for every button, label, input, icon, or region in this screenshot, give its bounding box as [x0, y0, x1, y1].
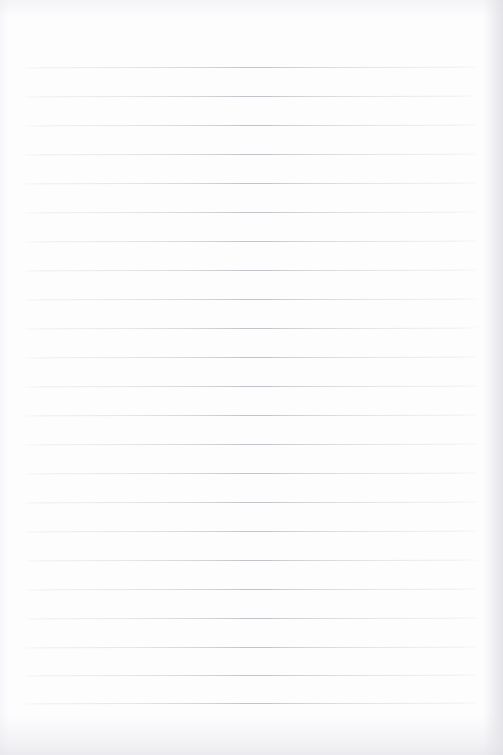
- rule-line: [25, 328, 477, 330]
- rule-line: [25, 183, 477, 185]
- rule-line: [25, 531, 477, 533]
- rule-line: [24, 125, 476, 127]
- rule-line: [25, 386, 477, 388]
- rule-line: [25, 560, 477, 562]
- rule-line: [25, 299, 477, 301]
- rule-line: [24, 67, 476, 69]
- rule-line: [25, 589, 477, 591]
- rule-line: [26, 618, 478, 620]
- scanned-page: [0, 0, 503, 755]
- rule-line: [24, 96, 476, 98]
- ruled-lines-group: [0, 0, 503, 755]
- rule-line: [25, 444, 477, 446]
- rule-line: [26, 675, 478, 677]
- rule-line: [25, 154, 477, 156]
- rule-line: [25, 357, 477, 359]
- rule-line: [25, 212, 477, 214]
- rule-line: [25, 502, 477, 504]
- rule-line: [25, 473, 477, 475]
- rule-line: [25, 241, 477, 243]
- rule-line: [26, 703, 478, 705]
- rule-line: [26, 647, 478, 649]
- rule-line: [25, 415, 477, 417]
- rule-line: [25, 270, 477, 272]
